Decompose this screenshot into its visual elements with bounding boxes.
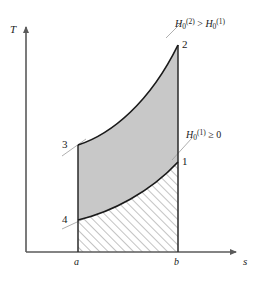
lower-label-value: 0 bbox=[216, 129, 221, 140]
point-label-1: 1 bbox=[182, 156, 188, 167]
lower-label-sup: (1) bbox=[197, 128, 206, 137]
t-s-diagram-figure: T s a b 1 2 3 4 H0(2) > H0(1) H0(1) ≥ 0 bbox=[0, 0, 262, 281]
x-tick-label-a: a bbox=[74, 257, 79, 267]
upper-label-symbol-2: H bbox=[205, 18, 212, 29]
point-label-4: 4 bbox=[62, 214, 68, 225]
y-axis-label: T bbox=[10, 24, 16, 35]
point-label-3: 3 bbox=[62, 139, 68, 150]
lower-label-relation: ≥ bbox=[208, 129, 214, 140]
upper-label-sup-2: (1) bbox=[216, 17, 225, 26]
upper-curve-label: H0(2) > H0(1) bbox=[175, 18, 225, 31]
upper-label-relation: > bbox=[197, 18, 203, 29]
upper-label-sup-1: (2) bbox=[186, 17, 195, 26]
lower-curve-label: H0(1) ≥ 0 bbox=[186, 129, 221, 142]
x-tick-label-b: b bbox=[174, 257, 179, 267]
x-axis-label: s bbox=[243, 256, 247, 267]
diagram-canvas bbox=[0, 0, 262, 281]
point-label-2: 2 bbox=[182, 39, 188, 50]
